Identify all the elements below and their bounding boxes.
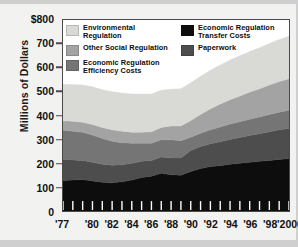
y-tick-label: 300 <box>0 134 54 146</box>
y-tick-label: 500 <box>0 85 54 97</box>
legend-item: Paperwork <box>181 44 284 56</box>
x-tick-label: '84 <box>124 218 138 230</box>
y-axis: $8007006005004003002001000 <box>0 0 62 247</box>
legend-swatch-other-social-regulation <box>66 45 79 56</box>
x-tick-label: '90 <box>184 218 198 230</box>
x-tick-label: '86 <box>144 218 158 230</box>
legend-item: Economic Regulation Efficiency Costs <box>66 59 171 76</box>
x-tick-label: '98 <box>263 218 277 230</box>
legend-swatch-environmental-regulation <box>66 25 79 36</box>
legend-item: Other Social Regulation <box>66 44 171 56</box>
x-tick-label: '92 <box>204 218 218 230</box>
legend-column-2: Economic Regulation Transfer Costs Paper… <box>181 24 284 76</box>
legend-column-1: Environmental Regulation Other Social Re… <box>66 24 171 76</box>
x-tick-label: '2000 <box>277 218 298 230</box>
legend-item: Economic Regulation Transfer Costs <box>181 24 284 41</box>
y-tick-label: 100 <box>0 182 54 194</box>
x-tick-label: '80 <box>85 218 99 230</box>
y-tick-label: 400 <box>0 110 54 122</box>
y-tick-label: 600 <box>0 61 54 73</box>
y-tick-label: 0 <box>0 206 54 218</box>
legend-swatch-economic-regulation-efficiency-costs <box>66 60 79 71</box>
x-tick-label: '82 <box>104 218 118 230</box>
legend-label: Other Social Regulation <box>83 44 168 52</box>
x-tick-label: '96 <box>243 218 257 230</box>
legend-item: Environmental Regulation <box>66 24 171 41</box>
y-tick-label: 200 <box>0 158 54 170</box>
x-tick-label: '94 <box>223 218 237 230</box>
x-tick-label: '88 <box>164 218 178 230</box>
legend-swatch-paperwork <box>181 45 194 56</box>
legend-label: Paperwork <box>198 44 236 52</box>
legend-label: Economic Regulation Transfer Costs <box>198 24 284 41</box>
chart-root: Millions of Dollars $8007006005004003002… <box>0 0 298 247</box>
legend-label: Economic Regulation Efficiency Costs <box>83 59 171 76</box>
chart-legend: Environmental Regulation Other Social Re… <box>66 24 284 76</box>
y-tick-label: $800 <box>0 13 54 25</box>
legend-label: Environmental Regulation <box>83 24 171 41</box>
y-tick-label: 700 <box>0 37 54 49</box>
x-tick-label: '77 <box>55 218 69 230</box>
legend-swatch-economic-regulation-transfer-costs <box>181 25 194 36</box>
